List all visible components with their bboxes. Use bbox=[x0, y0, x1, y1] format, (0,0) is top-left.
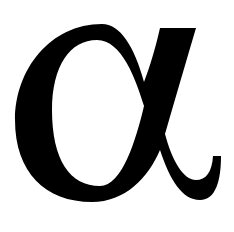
alpha-glyph: α bbox=[0, 0, 234, 232]
alpha-icon bbox=[0, 0, 234, 232]
